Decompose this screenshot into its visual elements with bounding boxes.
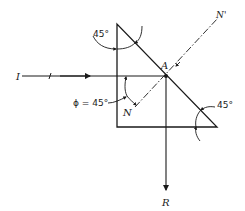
right-angle-arc (196, 107, 215, 141)
label-top-angle: 45° (93, 29, 109, 39)
incident-ray (22, 73, 166, 79)
diagram-svg: I A N N' R 45° 45° ϕ = 45° (0, 0, 245, 211)
label-reflected-r: R (161, 197, 170, 208)
prism-diagram: I A N N' R 45° 45° ϕ = 45° (0, 0, 245, 211)
label-normal-n: N (122, 107, 133, 118)
normal-line (135, 18, 218, 107)
label-right-angle: 45° (217, 100, 233, 110)
label-incident-i: I (15, 71, 21, 82)
label-incidence-angle: ϕ = 45° (73, 98, 108, 108)
label-point-a: A (160, 60, 168, 71)
point-a-dot (164, 74, 168, 78)
label-normal-n-prime: N' (215, 10, 226, 20)
incidence-angle-arc (108, 77, 136, 105)
